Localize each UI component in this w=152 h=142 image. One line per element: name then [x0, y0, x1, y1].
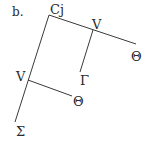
node-label-theta1: Θ	[131, 49, 142, 64]
node-label-theta2: Θ	[73, 94, 84, 109]
node-label-cj: Cj	[50, 2, 64, 17]
edge-v1-gamma	[80, 30, 93, 72]
node-label-v1: V	[91, 17, 102, 32]
panel-label: b.	[12, 5, 24, 19]
node-label-gamma: Γ	[80, 73, 89, 88]
edge-v2-theta2	[28, 80, 72, 96]
tree-diagram: b. Cj V Θ Γ V Θ Σ	[0, 0, 152, 142]
node-label-sigma: Σ	[16, 124, 25, 139]
node-label-v2: V	[15, 69, 26, 84]
